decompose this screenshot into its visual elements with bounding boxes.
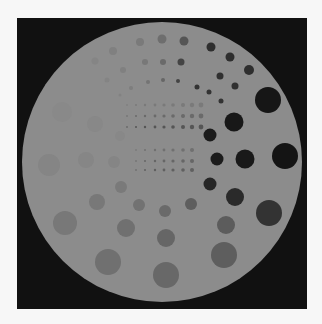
ct-phantom-image: [0, 0, 322, 324]
resolution-dot: [171, 159, 174, 162]
contrast-insert: [78, 152, 94, 168]
resolution-dot: [171, 168, 174, 171]
resolution-dot: [181, 168, 185, 172]
resolution-dot: [199, 103, 204, 108]
contrast-insert: [178, 59, 185, 66]
resolution-dot: [126, 104, 128, 106]
contrast-insert: [217, 216, 235, 234]
resolution-dot: [154, 115, 157, 118]
resolution-dot: [135, 104, 137, 106]
contrast-insert: [236, 150, 255, 169]
resolution-dot: [135, 149, 137, 151]
resolution-dot: [190, 103, 194, 107]
resolution-dot: [163, 169, 166, 172]
contrast-insert: [92, 58, 99, 65]
resolution-dot: [190, 159, 194, 163]
contrast-insert: [158, 35, 167, 44]
resolution-dot: [154, 126, 157, 129]
contrast-insert: [153, 262, 179, 288]
resolution-dot: [199, 125, 204, 130]
resolution-dot: [135, 115, 137, 117]
resolution-dot: [181, 114, 185, 118]
contrast-insert: [136, 38, 144, 46]
resolution-dot: [154, 160, 156, 162]
resolution-dot: [181, 125, 185, 129]
contrast-insert: [38, 154, 60, 176]
resolution-dot: [171, 103, 175, 107]
contrast-insert: [160, 59, 166, 65]
resolution-dot: [154, 104, 157, 107]
contrast-insert: [119, 94, 122, 97]
contrast-insert: [219, 99, 224, 104]
contrast-insert: [95, 249, 121, 275]
resolution-dot: [144, 169, 146, 171]
resolution-dot: [190, 114, 194, 118]
resolution-dot: [162, 125, 165, 128]
contrast-insert: [217, 73, 224, 80]
contrast-insert: [256, 200, 282, 226]
contrast-insert: [159, 205, 171, 217]
resolution-dot: [135, 169, 137, 171]
resolution-dot: [163, 160, 166, 163]
resolution-dot: [181, 148, 185, 152]
contrast-insert: [226, 188, 244, 206]
resolution-dot: [135, 160, 137, 162]
resolution-dot: [144, 126, 146, 128]
contrast-insert: [195, 85, 200, 90]
contrast-insert: [180, 37, 189, 46]
resolution-dot: [162, 114, 165, 117]
resolution-dot: [162, 103, 165, 106]
contrast-insert: [142, 59, 148, 65]
resolution-dot: [126, 126, 128, 128]
resolution-dot: [154, 149, 156, 151]
contrast-insert: [108, 156, 120, 168]
contrast-insert: [185, 198, 197, 210]
contrast-insert: [204, 129, 217, 142]
contrast-insert: [244, 65, 254, 75]
resolution-dot: [126, 115, 128, 117]
contrast-insert: [204, 178, 217, 191]
contrast-insert: [211, 153, 224, 166]
contrast-insert: [109, 47, 117, 55]
contrast-insert: [207, 90, 212, 95]
contrast-insert: [87, 116, 103, 132]
contrast-insert: [117, 219, 135, 237]
contrast-insert: [207, 43, 216, 52]
contrast-insert: [176, 79, 180, 83]
resolution-dot: [163, 149, 166, 152]
contrast-insert: [115, 181, 127, 193]
resolution-dot: [144, 104, 146, 106]
contrast-insert: [157, 229, 175, 247]
contrast-insert: [146, 80, 150, 84]
resolution-dot: [144, 149, 146, 151]
resolution-dot: [144, 115, 146, 117]
resolution-dot: [171, 148, 174, 151]
contrast-insert: [232, 83, 239, 90]
contrast-insert: [52, 102, 72, 122]
resolution-dot: [144, 160, 146, 162]
contrast-insert: [53, 211, 77, 235]
contrast-insert: [89, 194, 105, 210]
resolution-dot: [190, 125, 194, 129]
contrast-insert: [115, 131, 125, 141]
resolution-dot: [181, 103, 185, 107]
contrast-insert: [161, 78, 165, 82]
resolution-dot: [190, 168, 194, 172]
contrast-insert: [255, 87, 281, 113]
resolution-dot: [190, 148, 194, 152]
contrast-insert: [272, 143, 298, 169]
resolution-dot: [171, 114, 175, 118]
contrast-insert: [133, 199, 145, 211]
contrast-insert: [211, 242, 237, 268]
contrast-insert: [129, 86, 133, 90]
contrast-insert: [226, 53, 235, 62]
resolution-dot: [171, 125, 175, 129]
resolution-dot: [154, 169, 156, 171]
resolution-dot: [181, 159, 185, 163]
resolution-dot: [135, 126, 137, 128]
contrast-insert: [120, 67, 126, 73]
resolution-dot: [199, 114, 204, 119]
contrast-insert: [225, 113, 244, 132]
contrast-insert: [105, 78, 110, 83]
